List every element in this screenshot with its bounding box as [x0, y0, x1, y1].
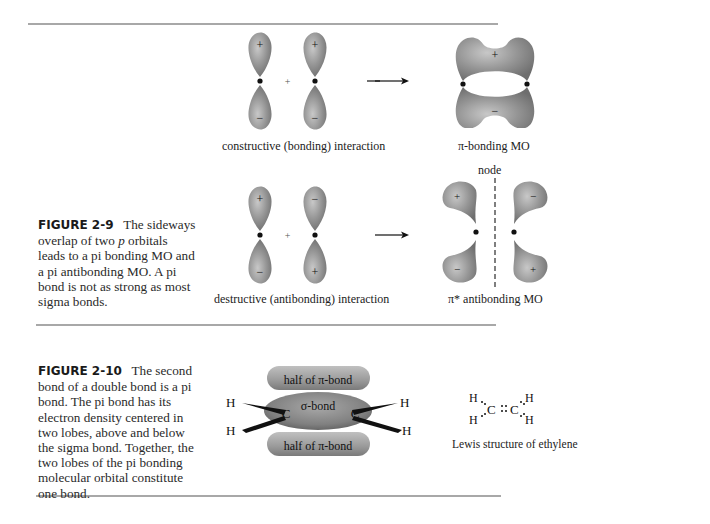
svg-text:C: C	[351, 406, 360, 421]
pi-antibonding-mo: + − − +	[440, 178, 550, 293]
destructive-label: destructive (antibonding) interaction	[214, 292, 389, 307]
figure-number: FIGURE 2-9	[38, 218, 114, 232]
figure-2-9-caption: FIGURE 2-9 The sideways overlap of two p…	[38, 217, 198, 309]
svg-text:C: C	[487, 402, 496, 417]
svg-text:σ-bond: σ-bond	[301, 399, 335, 413]
constructive-interaction-diagram: + − + − +	[230, 30, 380, 130]
svg-text:−: −	[257, 111, 264, 125]
divider-rule	[36, 324, 496, 326]
svg-text:−: −	[312, 192, 319, 206]
svg-text:+: +	[530, 263, 536, 275]
figure-2-10-caption: FIGURE 2-10 The second bond of a double …	[38, 363, 198, 501]
ethylene-pi-bond-diagram: half of π-bond half of π-bond σ-bond C C…	[220, 360, 430, 465]
svg-text:H: H	[525, 391, 534, 405]
svg-text:+: +	[492, 48, 499, 62]
svg-text:−: −	[312, 111, 319, 125]
svg-text:H: H	[469, 391, 478, 405]
svg-text:+: +	[285, 76, 291, 87]
reaction-arrow-2	[375, 228, 410, 242]
lewis-label: Lewis structure of ethylene	[452, 438, 578, 450]
destructive-interaction-diagram: + − − + +	[230, 184, 380, 284]
svg-text:H: H	[525, 413, 534, 427]
svg-text:H: H	[226, 395, 235, 410]
svg-text:+: +	[312, 38, 319, 52]
svg-text:+: +	[312, 265, 319, 279]
svg-text:−: −	[454, 263, 460, 275]
top-rule-full	[28, 23, 498, 25]
svg-text:half of π-bond: half of π-bond	[284, 373, 353, 387]
reaction-arrow	[375, 74, 410, 88]
constructive-label: constructive (bonding) interaction	[222, 139, 385, 154]
svg-text:H: H	[400, 395, 409, 410]
svg-text:C: C	[510, 402, 519, 417]
svg-text:half of π-bond: half of π-bond	[284, 439, 353, 453]
pi-antibonding-label: π* antibonding MO	[448, 292, 543, 307]
svg-text:C: C	[282, 406, 291, 421]
svg-text:−: −	[492, 104, 499, 118]
svg-text:−: −	[257, 265, 264, 279]
pi-bonding-mo: + −	[455, 36, 535, 128]
svg-text:H: H	[469, 413, 478, 427]
svg-text:+: +	[454, 190, 460, 202]
svg-text:H: H	[402, 423, 411, 438]
pi-bonding-label: π-bonding MO	[458, 139, 530, 154]
lewis-structure-ethylene: H H C C H H	[465, 388, 545, 432]
svg-text:+: +	[285, 230, 291, 241]
svg-text:+: +	[257, 192, 264, 206]
svg-text:−: −	[530, 190, 536, 202]
node-label: node	[478, 163, 501, 178]
svg-text:H: H	[226, 423, 235, 438]
figure-number: FIGURE 2-10	[38, 364, 122, 378]
svg-text:+: +	[257, 38, 264, 52]
